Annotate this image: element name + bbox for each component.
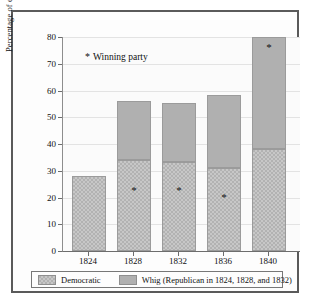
bar-segment-whig[interactable] <box>252 37 286 150</box>
bar-segment-democratic[interactable] <box>117 160 151 251</box>
ytick-mark-50 <box>58 117 62 118</box>
xtick-label-1840: 1840 <box>248 256 288 266</box>
winner-star-1840: * <box>266 42 272 53</box>
ytick-mark-20 <box>58 198 62 199</box>
ytick-mark-70 <box>58 64 62 65</box>
xtick-label-1828: 1828 <box>113 256 153 266</box>
winner-star-1832: * <box>176 185 182 196</box>
xtick-label-1824: 1824 <box>68 256 108 266</box>
bar-segment-democratic[interactable] <box>162 162 196 251</box>
figure: *Winning party * * <box>0 0 310 303</box>
winner-star-1836: * <box>221 192 227 203</box>
ytick-mark-60 <box>58 91 62 92</box>
ytick-mark-40 <box>58 144 62 145</box>
legend-item-democratic[interactable]: Democratic <box>38 275 101 285</box>
ytick-label-70: 70 <box>34 60 56 69</box>
bar-group-1824[interactable] <box>72 176 106 251</box>
bar-segment-whig[interactable] <box>162 103 196 162</box>
bar-group-1832[interactable]: * <box>162 103 196 251</box>
legend-item-whig[interactable]: Whig (Republican in 1824, 1828, and 1832… <box>119 275 292 285</box>
bar-group-1828[interactable]: * <box>117 101 151 251</box>
bar-segment-democratic[interactable] <box>72 176 106 251</box>
legend-label-whig: Whig (Republican in 1824, 1828, and 1832… <box>142 275 292 285</box>
legend-label-democratic: Democratic <box>61 275 101 285</box>
ytick-mark-80 <box>58 37 62 38</box>
bar-segment-whig[interactable] <box>207 95 241 168</box>
ytick-mark-0 <box>58 251 62 252</box>
winner-star-1828: * <box>131 185 137 196</box>
ytick-mark-30 <box>58 171 62 172</box>
winning-party-annotation: *Winning party <box>85 51 148 62</box>
ytick-label-60: 60 <box>34 87 56 96</box>
legend: Democratic Whig (Republican in 1824, 182… <box>31 271 283 288</box>
bar-group-1836[interactable]: * <box>207 95 241 251</box>
figure-frame: *Winning party * * <box>11 10 299 293</box>
annotation-label: Winning party <box>93 52 148 62</box>
ytick-label-20: 20 <box>34 194 56 203</box>
bar-segment-whig[interactable] <box>117 101 151 160</box>
ytick-label-50: 50 <box>34 113 56 122</box>
y-axis-title: Percentage of eligible voters who cast b… <box>4 0 14 52</box>
bar-group-1840[interactable]: * <box>252 37 286 252</box>
asterisk-icon: * <box>85 51 90 62</box>
plot-area: *Winning party * * <box>62 37 300 252</box>
ytick-label-30: 30 <box>34 167 56 176</box>
ytick-label-40: 40 <box>34 140 56 149</box>
ytick-label-0: 0 <box>34 247 56 256</box>
bar-segment-democratic[interactable] <box>207 168 241 251</box>
bar-segment-democratic[interactable] <box>252 149 286 251</box>
ytick-mark-10 <box>58 224 62 225</box>
legend-swatch-democratic-icon <box>38 275 56 285</box>
ytick-label-80: 80 <box>34 33 56 42</box>
ytick-label-10: 10 <box>34 220 56 229</box>
legend-swatch-whig-icon <box>119 275 137 285</box>
xtick-label-1836: 1836 <box>203 256 243 266</box>
xtick-label-1832: 1832 <box>158 256 198 266</box>
